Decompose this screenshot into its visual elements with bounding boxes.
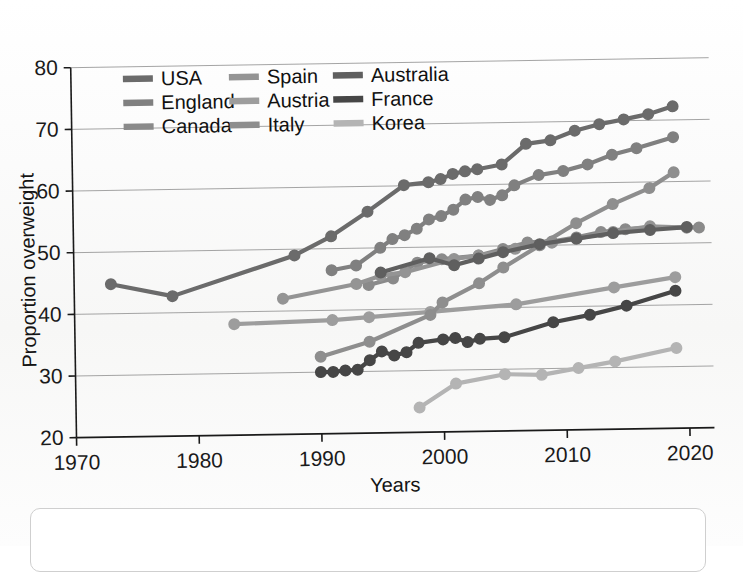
legend-label-canada: Canada xyxy=(161,114,232,137)
data-point xyxy=(500,369,511,380)
data-point xyxy=(327,315,338,326)
caption-box xyxy=(30,508,706,572)
data-point xyxy=(414,402,425,413)
data-point xyxy=(326,231,337,242)
data-point xyxy=(437,297,448,308)
legend-item-france[interactable]: France xyxy=(333,87,434,111)
data-point xyxy=(498,262,509,273)
x-tick-label-1970: 1970 xyxy=(53,450,100,474)
chart-figure: 20304050607080 197019801990200020102020 … xyxy=(0,0,743,506)
x-tick-label-2010: 2010 xyxy=(544,443,591,467)
legend-item-spain[interactable]: Spain xyxy=(229,65,318,88)
data-point xyxy=(413,338,424,349)
data-point xyxy=(571,218,582,229)
data-point xyxy=(473,253,484,264)
data-point xyxy=(645,225,656,236)
legend-item-australia[interactable]: Australia xyxy=(333,63,450,87)
data-point xyxy=(328,367,339,378)
legend-label-usa: USA xyxy=(161,67,203,90)
y-tick-label-50: 50 xyxy=(37,241,61,264)
data-point xyxy=(607,199,618,210)
data-point xyxy=(460,194,471,205)
data-point xyxy=(644,183,655,194)
y-tick-label-70: 70 xyxy=(35,118,59,141)
x-tick-labels-group: 197019801990200020102020 xyxy=(53,441,713,474)
data-point xyxy=(364,312,375,323)
data-point xyxy=(424,214,435,225)
series-korea xyxy=(413,343,682,413)
data-point xyxy=(511,299,522,310)
data-point xyxy=(351,279,362,290)
data-point xyxy=(667,101,678,112)
data-point xyxy=(472,164,483,175)
data-point xyxy=(621,300,632,311)
data-point xyxy=(460,166,471,177)
data-point xyxy=(670,285,681,296)
x-axis-title: Years xyxy=(370,473,421,496)
data-point xyxy=(375,267,386,278)
data-point xyxy=(377,346,388,357)
data-point xyxy=(607,150,618,161)
data-point xyxy=(436,211,447,222)
data-point xyxy=(610,356,621,367)
data-point xyxy=(425,310,436,321)
data-point xyxy=(316,367,327,378)
data-point xyxy=(474,278,485,289)
data-series-group xyxy=(103,101,707,418)
y-tick-label-60: 60 xyxy=(36,179,60,202)
x-tick-label-2020: 2020 xyxy=(667,441,714,465)
series-france xyxy=(314,285,682,377)
data-point xyxy=(106,279,117,290)
data-point xyxy=(351,260,362,271)
data-point xyxy=(399,230,410,241)
data-point xyxy=(609,282,620,293)
x-tick-label-1990: 1990 xyxy=(299,446,346,470)
chart-legend: USASpainAustraliaEnglandAustriaFranceCan… xyxy=(123,63,451,138)
data-point xyxy=(365,355,376,366)
legend-label-australia: Australia xyxy=(371,63,450,86)
data-point xyxy=(668,132,679,143)
y-tick-label-20: 20 xyxy=(40,426,64,449)
data-point xyxy=(682,222,693,233)
data-point xyxy=(497,190,508,201)
series-austria xyxy=(228,272,681,330)
data-point xyxy=(509,180,520,191)
legend-item-england[interactable]: England xyxy=(123,90,235,114)
data-point xyxy=(362,206,373,217)
data-point xyxy=(668,167,679,178)
data-point xyxy=(387,234,398,245)
legend-item-canada[interactable]: Canada xyxy=(123,114,232,138)
data-point xyxy=(694,222,705,233)
y-tick-label-40: 40 xyxy=(38,303,62,326)
data-point xyxy=(340,365,351,376)
data-point xyxy=(450,333,461,344)
legend-item-italy[interactable]: Italy xyxy=(229,113,304,136)
data-point xyxy=(573,363,584,374)
data-point xyxy=(585,310,596,321)
data-point xyxy=(534,239,545,250)
data-point xyxy=(229,319,240,330)
data-point xyxy=(399,180,410,191)
data-point xyxy=(167,291,178,302)
data-point xyxy=(423,177,434,188)
data-point xyxy=(289,250,300,261)
legend-label-spain: Spain xyxy=(267,65,318,88)
legend-label-england: England xyxy=(161,90,235,113)
data-point xyxy=(643,109,654,120)
legend-item-usa[interactable]: USA xyxy=(123,67,203,90)
data-point xyxy=(548,317,559,328)
data-point xyxy=(424,253,435,264)
data-point xyxy=(451,378,462,389)
data-point xyxy=(496,159,507,170)
data-point xyxy=(435,174,446,185)
legend-label-korea: Korea xyxy=(371,111,426,134)
data-point xyxy=(326,265,337,276)
legend-item-austria[interactable]: Austria xyxy=(229,89,330,113)
x-tick-label-2000: 2000 xyxy=(421,445,468,469)
data-point xyxy=(447,169,458,180)
x-axis-line xyxy=(77,428,715,438)
data-point xyxy=(498,247,509,258)
legend-item-korea[interactable]: Korea xyxy=(333,111,426,134)
data-point xyxy=(571,233,582,244)
data-point xyxy=(389,350,400,361)
